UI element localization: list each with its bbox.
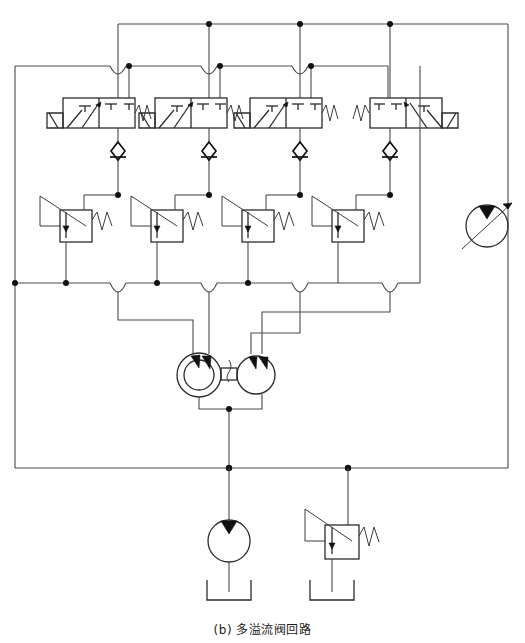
check-valve-2[interactable] bbox=[201, 142, 217, 160]
hydraulic-circuit-diagram: (b) 多溢流阀回路 bbox=[0, 0, 525, 643]
valve-actuator-stroke bbox=[236, 113, 245, 128]
valve-actuator-stroke bbox=[141, 113, 150, 128]
pilot-line-in bbox=[84, 195, 118, 210]
junction-dot bbox=[387, 21, 393, 27]
junction-dot bbox=[387, 192, 393, 198]
pump-shaft-swash-indicator bbox=[227, 360, 231, 382]
pilot-line-in bbox=[266, 195, 300, 210]
check-valve-1[interactable] bbox=[110, 142, 126, 160]
pilot-diagonal bbox=[40, 196, 86, 226]
junction-dot bbox=[12, 280, 18, 286]
pilot-line-in bbox=[175, 195, 209, 210]
valve-actuator-stroke bbox=[447, 113, 456, 128]
line-hop-4 bbox=[110, 283, 126, 292]
feed-pump1-left bbox=[118, 292, 193, 354]
junction-dot bbox=[226, 406, 232, 412]
supply-pump[interactable] bbox=[208, 468, 250, 592]
valve-transition-line bbox=[427, 110, 442, 128]
twin-pump-assembly[interactable] bbox=[177, 353, 275, 468]
check-valve-4[interactable] bbox=[382, 142, 398, 160]
junction-dot bbox=[206, 21, 212, 27]
junction-dot bbox=[217, 63, 223, 69]
pilot-drain-loop bbox=[305, 509, 325, 541]
junction-dot bbox=[154, 280, 160, 286]
junction-dot bbox=[206, 192, 212, 198]
junction-dot bbox=[245, 280, 251, 286]
pump-2-flow-arrow-b bbox=[259, 357, 268, 369]
pilot-drain-loop bbox=[312, 196, 332, 226]
line-hop-5 bbox=[201, 283, 217, 292]
pump-2-flow-arrow-a bbox=[249, 357, 257, 369]
top-bus-drop-wires bbox=[118, 24, 390, 98]
pilot-drain-loop bbox=[131, 196, 151, 226]
relief-valve-2[interactable] bbox=[131, 195, 209, 283]
mid-return-rail bbox=[12, 280, 420, 292]
secondary-top-bus bbox=[15, 66, 388, 74]
valve-transition-line bbox=[254, 110, 269, 128]
junction-dot bbox=[297, 21, 303, 27]
feed-pump2-left bbox=[251, 292, 300, 354]
circuit-schematic-canvas bbox=[0, 0, 525, 643]
line-hop-6 bbox=[292, 283, 308, 292]
valve-actuator-left bbox=[47, 113, 63, 128]
relief-valve-4[interactable] bbox=[312, 195, 390, 283]
relief-valve-arrowhead bbox=[245, 226, 251, 232]
relief-valve-arrowhead bbox=[329, 543, 335, 549]
pump-1-flow-arrow-b bbox=[202, 356, 211, 369]
variable-adjust-arrowhead bbox=[503, 203, 512, 209]
figure-caption: (b) 多溢流阀回路 bbox=[0, 620, 525, 637]
top-bus-junctions bbox=[126, 21, 393, 69]
relief-valve-spring bbox=[274, 212, 294, 230]
feed-pump2-right bbox=[262, 292, 390, 354]
relief-valve-arrowhead bbox=[335, 226, 341, 232]
line-hop-7 bbox=[382, 283, 398, 292]
pilot-line-in bbox=[356, 195, 390, 210]
valve-actuator-right bbox=[442, 113, 458, 128]
relief-valve-1[interactable] bbox=[40, 195, 118, 283]
relief-valve-arrowhead bbox=[154, 226, 160, 232]
pilot-diagonal bbox=[131, 196, 177, 226]
relief-valve-3[interactable] bbox=[222, 195, 300, 283]
variable-displacement-motor[interactable] bbox=[462, 203, 512, 249]
pilot-diagonal bbox=[222, 196, 268, 226]
relief-valve-body bbox=[325, 525, 359, 559]
relief-node-junctions bbox=[115, 192, 393, 198]
valve-transition-line bbox=[159, 110, 174, 128]
junction-dot bbox=[63, 280, 69, 286]
junction-dot bbox=[297, 192, 303, 198]
valve-spring-right bbox=[322, 105, 338, 121]
junction-dot bbox=[308, 63, 314, 69]
directional-control-valve-3[interactable] bbox=[234, 98, 338, 128]
directional-control-valve-1[interactable] bbox=[47, 98, 151, 128]
valve-transition-line bbox=[67, 110, 82, 128]
main-relief-valve[interactable] bbox=[305, 468, 379, 592]
pilot-drain-loop bbox=[222, 196, 242, 226]
relief-valve-spring bbox=[92, 212, 112, 230]
supply-pump-flow-arrow bbox=[221, 521, 237, 534]
valve-actuator-stroke bbox=[49, 113, 58, 128]
relief-valve-spring bbox=[359, 527, 379, 546]
pilot-diagonal bbox=[312, 196, 358, 226]
junction-dot bbox=[115, 192, 121, 198]
valve-spring-left bbox=[353, 105, 369, 121]
relief-valve-arrowhead bbox=[63, 226, 69, 232]
motor-flow-arrow bbox=[479, 206, 495, 219]
directional-control-valve-4[interactable] bbox=[353, 98, 458, 128]
junction-dot bbox=[126, 63, 132, 69]
pump-coupling-shaft bbox=[221, 368, 237, 380]
relief-valve-spring bbox=[364, 212, 384, 230]
relief-valve-spring bbox=[183, 212, 203, 230]
pilot-drain-loop bbox=[40, 196, 60, 226]
directional-control-valve-2[interactable] bbox=[139, 98, 243, 128]
valve-to-check-wires bbox=[118, 128, 390, 195]
check-valve-3[interactable] bbox=[292, 142, 308, 160]
